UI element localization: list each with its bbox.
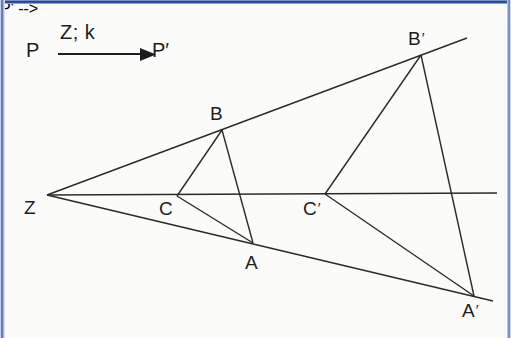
point-label-z: Z: [24, 198, 36, 217]
point-label-c: C: [159, 199, 173, 218]
ray-Z-A-Aprime: [47, 195, 493, 301]
triangle-abc-edge-0: [177, 130, 222, 196]
arrow-right-icon: [56, 44, 166, 64]
prime-mark-icon: ′: [422, 29, 425, 46]
triangle-abc-prime-edge-2: [421, 55, 474, 296]
ray-Z-C-Cprime: [47, 193, 497, 195]
triangle-abc-group: [177, 130, 253, 243]
notation-image-label: P′: [152, 40, 169, 60]
point-label-c2: C′: [303, 198, 321, 218]
prime-mark-icon: ′: [476, 301, 479, 318]
point-label-b2: B′: [408, 28, 425, 48]
dilation-rays-group: [47, 38, 497, 301]
point-label-b: B: [210, 104, 223, 123]
point-label-a2: A′: [462, 300, 479, 320]
notation-map-label: Z; k: [60, 22, 95, 42]
triangle-abc-prime-edge-1: [325, 194, 474, 296]
triangle-abc-prime-group: [325, 55, 474, 296]
notation-source-label: P: [26, 40, 39, 60]
point-label-a: A: [245, 253, 258, 272]
mapping-notation: P Z; k P′: [24, 22, 204, 66]
prime-mark-icon: ′: [318, 199, 321, 216]
triangle-abc-prime-edge-0: [325, 55, 421, 194]
diagram-page: ZABCA′B′C′ P' --> P Z; k P′: [0, 0, 511, 338]
